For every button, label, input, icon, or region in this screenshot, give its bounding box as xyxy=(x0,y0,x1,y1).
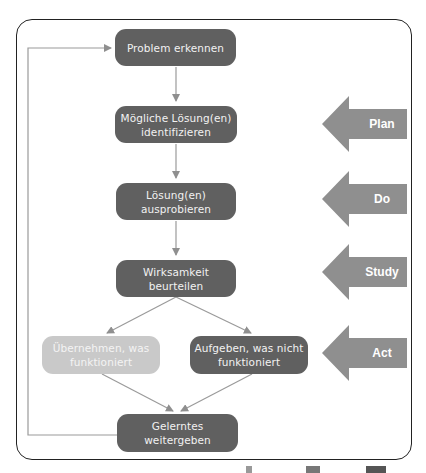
cropped-text-fragment xyxy=(246,466,252,473)
step-label: Gelerntes weitergeben xyxy=(121,419,234,447)
step-aufgeben: Aufgeben, was nicht funktioniert xyxy=(190,336,308,374)
step-label: Wirksamkeit beurteilen xyxy=(120,265,232,293)
step-uebernehmen: Übernehmen, was funktioniert xyxy=(42,336,160,374)
phase-label: Study xyxy=(352,244,412,300)
step-label: Problem erkennen xyxy=(127,41,224,55)
phase-label: Act xyxy=(352,325,412,381)
step-gelerntes-weitergeben: Gelerntes weitergeben xyxy=(117,414,238,452)
step-label: Übernehmen, was funktioniert xyxy=(46,341,156,369)
phase-label: Do xyxy=(352,171,412,227)
step-label: Mögliche Lösung(en) identifizieren xyxy=(119,111,233,139)
cropped-text-fragment xyxy=(306,466,320,473)
phase-arrow-study: Study xyxy=(322,244,412,300)
step-loesung-ausprobieren: Lösung(en) ausprobieren xyxy=(116,183,236,220)
step-label: Lösung(en) ausprobieren xyxy=(120,188,232,216)
step-loesung-identifizieren: Mögliche Lösung(en) identifizieren xyxy=(115,106,237,143)
connector-lines xyxy=(0,0,426,473)
phase-arrow-plan: Plan xyxy=(322,96,412,152)
phase-label: Plan xyxy=(352,96,412,152)
phase-arrow-act: Act xyxy=(322,325,412,381)
cropped-text-fragment xyxy=(366,466,386,473)
step-wirksamkeit-beurteilen: Wirksamkeit beurteilen xyxy=(116,260,236,297)
step-problem-erkennen: Problem erkennen xyxy=(115,29,236,66)
phase-arrow-do: Do xyxy=(322,171,412,227)
step-label: Aufgeben, was nicht funktioniert xyxy=(194,341,304,369)
